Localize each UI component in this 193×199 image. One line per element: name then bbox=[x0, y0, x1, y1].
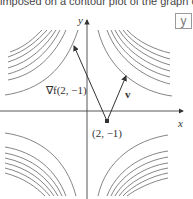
v-label: v bbox=[125, 89, 131, 100]
contours-lower-right bbox=[98, 135, 168, 196]
contour-plot bbox=[0, 0, 193, 199]
gradient-label: ∇f(2, −1) bbox=[46, 85, 87, 96]
contours-upper-right bbox=[98, 30, 172, 96]
point-label: (2, −1) bbox=[92, 128, 122, 139]
contours-lower-left bbox=[5, 133, 76, 196]
x-axis-label: x bbox=[178, 118, 183, 129]
y-axis-label: y bbox=[78, 15, 83, 26]
v-vector bbox=[107, 76, 126, 121]
corner-box-label: y bbox=[175, 13, 192, 29]
point-marker bbox=[105, 119, 109, 123]
